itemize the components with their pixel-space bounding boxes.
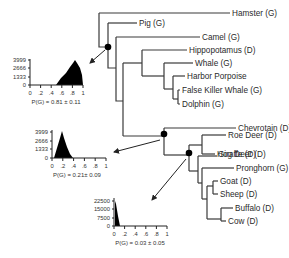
taxon-buffalo: Buffalo (D) — [235, 204, 274, 213]
phylogenetic-figure: Hamster (G) Pig (G) Camel (G) Hippopotam… — [0, 0, 289, 258]
ytick: 2666 — [13, 65, 26, 71]
ytick: 3999 — [35, 129, 48, 135]
node-camel-branch — [116, 37, 123, 101]
phylogenetic-tree — [99, 13, 236, 221]
histogram-caption: P(G) = 0.21± 0.09 — [53, 172, 101, 178]
ytick: 3999 — [13, 57, 26, 63]
taxon-harbor-porpoise: Harbor Porpoise — [187, 72, 247, 81]
svg-text:.4: .4 — [133, 231, 139, 237]
density-area — [115, 201, 120, 226]
taxon-hamster: Hamster (G) — [232, 9, 277, 18]
svg-text:.8: .8 — [93, 163, 98, 169]
svg-text:1: 1 — [165, 231, 168, 237]
taxon-sheep: Sheep (D) — [220, 190, 258, 199]
svg-text:.2: .2 — [60, 163, 65, 169]
svg-text:.2: .2 — [122, 231, 127, 237]
taxon-giraffe: Giraffe (D) — [218, 150, 256, 159]
svg-text:.4: .4 — [71, 163, 77, 169]
taxon-whale: Whale (G) — [195, 59, 233, 68]
svg-text:.6: .6 — [82, 163, 87, 169]
svg-text:0: 0 — [50, 163, 53, 169]
node-marker-pecora — [186, 150, 193, 157]
density-area — [56, 60, 83, 85]
ytick: 0 — [23, 82, 26, 88]
histogram-pecora: 22500 15000 7500 0 0 .2 .4 .6 .8 1 P(G) … — [94, 198, 169, 246]
ytick: 1333 — [35, 146, 48, 152]
density-area — [54, 131, 73, 158]
ytick: 2666 — [35, 138, 48, 144]
taxon-hippopotamus: Hippopotamus (D) — [189, 46, 256, 55]
svg-text:.6: .6 — [143, 231, 148, 237]
taxon-pronghorn: Pronghorn (G) — [236, 164, 289, 173]
taxon-roe-deer: Roe Deer (D) — [228, 131, 277, 140]
ytick: 15000 — [94, 206, 110, 212]
svg-text:.4: .4 — [49, 90, 55, 96]
node-marker-artiodactyla — [105, 44, 112, 51]
taxon-camel: Camel (G) — [202, 33, 240, 42]
svg-text:.2: .2 — [38, 90, 43, 96]
taxon-goat: Goat (D) — [220, 177, 252, 186]
ytick: 0 — [45, 155, 48, 161]
histogram-ruminantia: 3999 2666 1333 0 0 .2 .4 .6 .8 1 P(G) = … — [35, 129, 108, 178]
svg-text:0: 0 — [112, 231, 115, 237]
node-marker-ruminantia — [161, 131, 168, 138]
axes — [114, 198, 167, 226]
taxon-pig: Pig (G) — [139, 19, 165, 28]
svg-text:.8: .8 — [70, 90, 75, 96]
ytick: 7500 — [97, 215, 110, 221]
taxon-dolphin: Dolphin (G) — [182, 100, 224, 109]
histogram-artiodactyla: 3999 2666 1333 0 0 .2 .4 .6 .8 1 P(G) = … — [13, 57, 85, 105]
pointer-arrows — [90, 50, 186, 200]
taxon-cow: Cow (D) — [228, 217, 258, 226]
root-branch — [99, 13, 108, 47]
arrow-to-histogram-3 — [152, 159, 186, 200]
taxon-false-killer-whale: False Killer Whale (G) — [182, 86, 262, 95]
histogram-caption: P(G) = 0.03 ± 0.05 — [115, 240, 165, 246]
arrow-to-histogram-1 — [90, 50, 105, 63]
svg-text:.8: .8 — [154, 231, 159, 237]
svg-text:1: 1 — [104, 163, 107, 169]
arrow-to-histogram-2 — [114, 140, 160, 152]
svg-text:.6: .6 — [59, 90, 64, 96]
svg-text:0: 0 — [28, 90, 31, 96]
ytick: 1333 — [13, 74, 26, 80]
histogram-caption: P(G) = 0.81 ± 0.11 — [31, 99, 81, 105]
ytick: 22500 — [94, 198, 110, 204]
svg-text:1: 1 — [81, 90, 84, 96]
ytick: 0 — [107, 223, 110, 229]
